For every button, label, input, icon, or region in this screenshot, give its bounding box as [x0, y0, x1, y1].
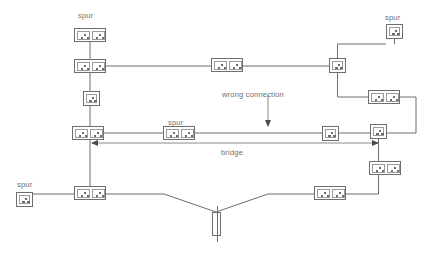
- socket-left-ring-corner[interactable]: [72, 126, 104, 140]
- socket-pin: [221, 64, 223, 67]
- socket-pin: [396, 99, 399, 101]
- socket-face: [372, 164, 385, 173]
- socket-pin: [218, 67, 221, 69]
- socket-pin: [335, 67, 338, 69]
- socket-pin: [100, 135, 103, 137]
- socket-pin: [390, 99, 393, 101]
- socket-pin: [170, 135, 173, 137]
- socket-right-double[interactable]: [368, 90, 400, 104]
- socket-face: [166, 129, 179, 138]
- label-spur-bottom-left: spur: [17, 180, 32, 189]
- socket-pin: [191, 135, 194, 137]
- socket-pin: [239, 67, 242, 69]
- ring-circuit-diagram: spurspurspurspurwrong connectionbridge: [0, 0, 426, 255]
- socket-pin: [96, 68, 99, 70]
- socket-pin: [173, 132, 175, 135]
- socket-pin: [382, 170, 385, 172]
- socket-pin: [378, 96, 380, 99]
- socket-face: [371, 93, 384, 102]
- socket-pin: [394, 167, 396, 170]
- socket-right-ring-corner[interactable]: [370, 124, 387, 139]
- socket-upper-left-tee[interactable]: [74, 59, 106, 73]
- socket-pin: [102, 195, 105, 197]
- socket-pin: [224, 67, 227, 69]
- socket-spur-middle[interactable]: [163, 126, 195, 140]
- socket-spur-bottom-left[interactable]: [16, 192, 33, 207]
- socket-face: [332, 189, 345, 198]
- socket-pin: [379, 130, 381, 133]
- socket-pin: [233, 67, 236, 69]
- socket-pin: [99, 192, 101, 195]
- socket-face: [387, 164, 400, 173]
- socket-pin: [342, 195, 345, 197]
- socket-pin: [376, 170, 379, 172]
- socket-pin: [94, 100, 97, 102]
- socket-upper-mid[interactable]: [211, 58, 243, 72]
- socket-pin: [338, 64, 340, 67]
- socket-pin: [92, 97, 94, 100]
- socket-pin: [331, 132, 333, 135]
- socket-face: [77, 189, 90, 198]
- label-bridge: bridge: [221, 148, 243, 157]
- socket-pin: [97, 132, 99, 135]
- socket-face: [332, 61, 343, 70]
- socket-pin: [328, 135, 331, 137]
- wire-segment: [216, 194, 314, 212]
- socket-bottom-right[interactable]: [314, 186, 346, 200]
- socket-pin: [89, 100, 92, 102]
- socket-pin: [340, 67, 343, 69]
- socket-pin: [392, 33, 395, 35]
- socket-face: [92, 62, 105, 71]
- socket-pin: [102, 68, 105, 70]
- socket-pin: [87, 195, 90, 197]
- socket-left-single[interactable]: [83, 91, 100, 106]
- socket-top-right-single[interactable]: [386, 24, 403, 39]
- socket-face: [229, 61, 242, 70]
- socket-face: [214, 61, 227, 70]
- socket-face: [386, 93, 399, 102]
- socket-pin: [391, 170, 394, 172]
- socket-pin: [102, 37, 105, 39]
- wire-segment: [400, 97, 416, 133]
- socket-right-lower[interactable]: [369, 161, 401, 175]
- label-spur-top-right: spur: [385, 13, 400, 22]
- socket-pin: [99, 34, 101, 37]
- socket-pin: [25, 198, 27, 201]
- socket-pin: [81, 37, 84, 39]
- socket-mid-right-single[interactable]: [322, 126, 339, 141]
- socket-pin: [87, 37, 90, 39]
- socket-pin: [87, 68, 90, 70]
- socket-pin: [94, 135, 97, 137]
- fuse-element-line: [217, 206, 218, 242]
- socket-face: [19, 195, 30, 204]
- socket-pin: [85, 135, 88, 137]
- socket-face: [181, 129, 194, 138]
- socket-pin: [393, 96, 395, 99]
- socket-bottom-left-tee[interactable]: [74, 186, 106, 200]
- socket-pin: [99, 65, 101, 68]
- socket-pin: [81, 195, 84, 197]
- socket-face: [92, 31, 105, 40]
- socket-face: [92, 189, 105, 198]
- socket-pin: [376, 133, 379, 135]
- socket-pin: [84, 65, 86, 68]
- socket-pin: [22, 201, 25, 203]
- socket-face: [77, 31, 90, 40]
- socket-pin: [82, 132, 84, 135]
- socket-pin: [375, 99, 378, 101]
- socket-pin: [96, 37, 99, 39]
- socket-pin: [176, 135, 179, 137]
- wire-segment: [338, 44, 387, 58]
- wire-segment: [346, 175, 379, 194]
- socket-upper-right-tee[interactable]: [329, 58, 346, 73]
- socket-face: [77, 62, 90, 71]
- socket-pin: [188, 132, 190, 135]
- socket-spur-top-left[interactable]: [74, 28, 106, 42]
- label-wrong-connection: wrong connection: [222, 90, 284, 99]
- wire-segment: [106, 194, 216, 212]
- socket-pin: [236, 64, 238, 67]
- socket-pin: [84, 34, 86, 37]
- socket-pin: [185, 135, 188, 137]
- socket-pin: [84, 192, 86, 195]
- socket-face: [86, 94, 97, 103]
